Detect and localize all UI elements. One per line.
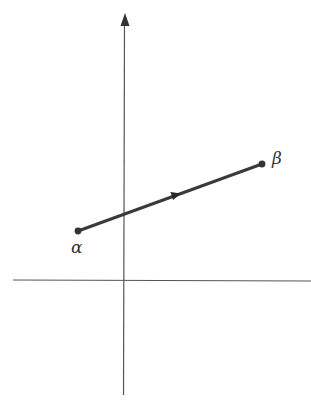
x-axis (13, 280, 311, 281)
diagram-canvas (0, 0, 311, 412)
point-alpha (75, 228, 82, 235)
y-axis-arrowhead-icon (121, 13, 130, 26)
segment-alpha-beta (78, 164, 262, 231)
y-axis (124, 24, 125, 395)
label-alpha: α (71, 239, 82, 256)
label-beta: β (272, 150, 282, 167)
point-beta (259, 161, 266, 168)
